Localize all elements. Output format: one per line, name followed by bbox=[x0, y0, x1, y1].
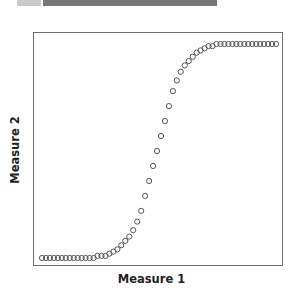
y-axis-label: Measure 2 bbox=[8, 116, 22, 184]
data-point bbox=[123, 238, 128, 243]
data-point bbox=[158, 133, 163, 138]
data-point bbox=[143, 193, 148, 198]
data-point bbox=[131, 228, 136, 233]
data-point bbox=[135, 219, 140, 224]
data-point bbox=[186, 59, 191, 64]
data-point bbox=[147, 178, 152, 183]
data-point bbox=[174, 78, 179, 83]
data-point bbox=[190, 54, 195, 59]
scatter-plot bbox=[0, 0, 303, 291]
data-point bbox=[162, 118, 167, 123]
data-point bbox=[166, 104, 171, 109]
x-axis-label: Measure 1 bbox=[0, 272, 303, 286]
data-point bbox=[151, 163, 156, 168]
data-point bbox=[119, 243, 124, 248]
data-point bbox=[154, 148, 159, 153]
data-point bbox=[170, 89, 175, 94]
data-point bbox=[139, 208, 144, 213]
data-point bbox=[182, 63, 187, 68]
data-point bbox=[178, 69, 183, 74]
data-point bbox=[127, 234, 132, 239]
